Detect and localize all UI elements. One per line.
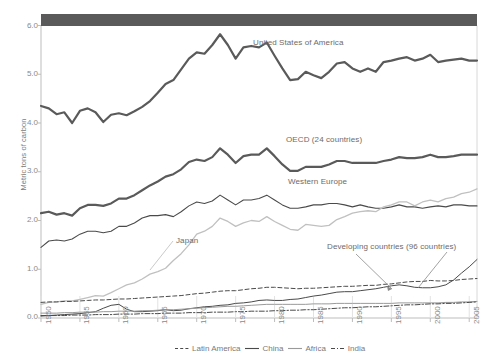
y-tick-label: 3.0	[4, 167, 38, 175]
x-tick-label: 1985	[317, 306, 325, 324]
series-label-usa: United States of America	[253, 38, 343, 47]
y-tick-label: 5.0	[4, 70, 38, 78]
x-tick-label: 2000	[434, 306, 442, 324]
chart-legend: Latin America China Africa India	[175, 344, 365, 353]
x-tick-label: 1990	[356, 306, 364, 324]
series-label-western-europe: Western Europe	[288, 177, 347, 186]
legend-swatch-china	[245, 345, 259, 352]
x-tick-label: 1995	[395, 306, 403, 324]
emissions-per-capita-chart: Metric tons of carbon 6.0 5.0 4.0 3.0 2.…	[0, 0, 491, 364]
legend-item-india: India	[331, 344, 365, 353]
y-tick-label: 4.0	[4, 119, 38, 127]
series-label-japan: Japan	[176, 236, 198, 245]
x-tick-label: 1955	[83, 306, 91, 324]
series-label-oecd: OECD (24 countries)	[286, 135, 362, 144]
x-tick-label: 1975	[239, 306, 247, 324]
y-axis-ticks: 6.0 5.0 4.0 3.0 2.0 1.0 0.0	[0, 0, 38, 364]
legend-label-africa: Africa	[305, 344, 325, 353]
x-tick-label: 1965	[161, 306, 169, 324]
legend-item-china: China	[245, 344, 283, 353]
legend-item-africa: Africa	[288, 344, 325, 353]
series-line-latin-america	[41, 279, 477, 303]
x-tick-label: 1980	[278, 306, 286, 324]
legend-item-latin-america: Latin America	[175, 344, 240, 353]
series-line-oecd-24-countries	[41, 148, 477, 215]
y-tick-label: 6.0	[4, 22, 38, 30]
legend-label-china: China	[262, 344, 283, 353]
y-tick-label: 1.0	[4, 265, 38, 273]
leader-line-developing-right	[418, 252, 447, 288]
series-label-developing-countries: Developing countries (96 countries)	[327, 242, 456, 251]
legend-swatch-india	[331, 345, 345, 352]
series-line-united-states-of-america	[41, 34, 477, 123]
series-line-india	[41, 302, 477, 316]
legend-label-india: India	[348, 344, 365, 353]
legend-label-latin-america: Latin America	[192, 344, 240, 353]
x-tick-label: 1950	[45, 306, 53, 324]
y-tick-label: 0.0	[4, 313, 38, 321]
x-tick-label: 2005	[473, 306, 481, 324]
legend-swatch-latin-america	[175, 345, 189, 352]
leader-line-developing-left	[356, 254, 392, 289]
leader-line-japan	[150, 241, 173, 270]
x-tick-label: 1960	[122, 306, 130, 324]
header-band	[41, 14, 477, 26]
y-tick-label: 2.0	[4, 216, 38, 224]
x-tick-label: 1970	[200, 306, 208, 324]
legend-swatch-africa	[288, 345, 302, 352]
